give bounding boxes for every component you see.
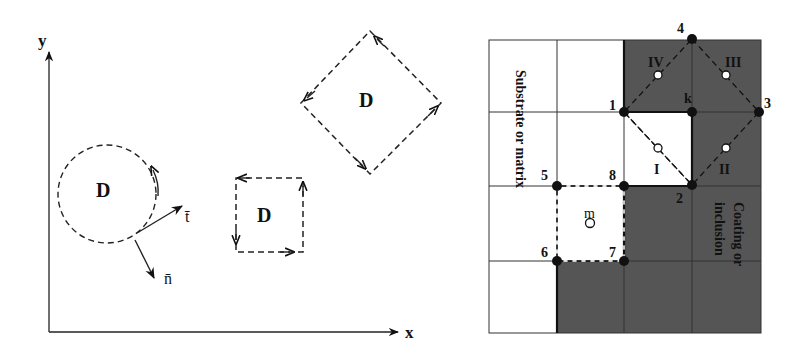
diamond-arrow-top-icon (377, 39, 384, 46)
cell-label-m: m (584, 206, 595, 221)
diamond-arrow-right-icon (428, 109, 435, 116)
coating-label-line1: Coating or (731, 202, 746, 266)
node-label-6: 6 (541, 245, 548, 260)
cell-label-I: I (654, 162, 659, 177)
normal-vector-arrow (135, 240, 154, 278)
circle-domain-label: D (96, 179, 110, 201)
node-label-8: 8 (609, 168, 616, 183)
right-figure: 1 k 3 4 2 5 8 6 7 I II III IV m Substrat… (489, 21, 771, 333)
coating-label-line2: inclusion (712, 202, 727, 256)
node-label-7: 7 (609, 245, 616, 260)
tangent-vector-label: t̄ (184, 208, 190, 225)
node-label-3: 3 (764, 96, 771, 111)
figure-canvas: y x D t̄ n̄ D D (0, 0, 806, 353)
cell-label-IV: IV (648, 55, 664, 70)
tangent-vector-arrow (137, 206, 182, 233)
x-axis-label: x (405, 323, 414, 342)
square-domain-label: D (257, 204, 271, 226)
substrate-label: Substrate or matrix (513, 70, 528, 188)
y-axis-label: y (38, 31, 47, 50)
node-label-2: 2 (676, 191, 683, 206)
cell-label-III: III (725, 55, 741, 70)
diamond-arrow-bottom-icon (355, 158, 363, 166)
cell-label-II: II (719, 162, 730, 177)
diamond-domain-label: D (359, 89, 373, 111)
node-label-5: 5 (541, 168, 548, 183)
left-figure: y x D t̄ n̄ D D (38, 31, 441, 342)
node-label-4: 4 (677, 21, 684, 36)
node-label-1: 1 (609, 98, 616, 113)
node-label-k: k (684, 91, 692, 106)
normal-vector-label: n̄ (164, 270, 172, 287)
